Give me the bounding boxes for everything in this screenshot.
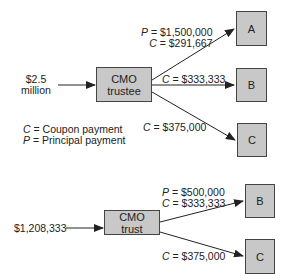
tranche-a-label: A (248, 23, 255, 35)
tranche-b-label: B (248, 79, 255, 91)
input-amount-label: $2.5 million (18, 74, 54, 96)
tranche-c-label: C (248, 134, 256, 146)
c-value: = $375,000 (173, 250, 226, 262)
trust-line1: CMO (119, 211, 145, 223)
trustee-line2: trustee (107, 85, 141, 97)
c-var: C (143, 121, 151, 133)
cmo-trustee-box: CMO trustee (96, 67, 152, 102)
input-amount-bottom: $1,208,333 (14, 223, 67, 234)
flow-label-b: C = $333,333 (162, 74, 225, 85)
trustee-line1: CMO (107, 73, 141, 85)
legend: C = Coupon payment P = Principal payment (23, 124, 125, 146)
tranche-b-label-bottom: B (256, 195, 263, 207)
c-value: = $375,000 (154, 121, 207, 133)
c-var: C (162, 250, 170, 262)
cmo-trust-box: CMO trust (104, 210, 160, 235)
c-value: = $291,667 (160, 37, 213, 49)
c-var: C (162, 197, 170, 209)
tranche-a-box: A (236, 11, 267, 46)
input-amount-line2: million (18, 85, 54, 96)
flow-label-b-bottom: P = $500,000 C = $333,333 (162, 187, 225, 209)
tranche-c-box-bottom: C (245, 239, 275, 274)
tranche-c-box: C (237, 123, 267, 157)
tranche-b-box-bottom: B (245, 184, 275, 218)
tranche-b-box: B (236, 68, 267, 102)
legend-principal: P = Principal payment (23, 135, 125, 146)
flow-label-c: C = $375,000 (143, 122, 206, 133)
p-var: P (141, 26, 148, 38)
c-var: C (149, 37, 157, 49)
tranche-c-label-bottom: C (256, 251, 264, 263)
flow-label-a: P = $1,500,000 C = $291,667 (141, 27, 213, 49)
c-var: C (162, 73, 170, 85)
c-value: = $333,333 (173, 197, 226, 209)
flow-label-c-bottom: C = $375,000 (162, 251, 225, 262)
legend-principal-text: = Principal payment (33, 134, 126, 146)
legend-principal-var: P (23, 134, 30, 146)
c-value: = $333,333 (173, 73, 226, 85)
trust-line2: trust (119, 223, 145, 235)
